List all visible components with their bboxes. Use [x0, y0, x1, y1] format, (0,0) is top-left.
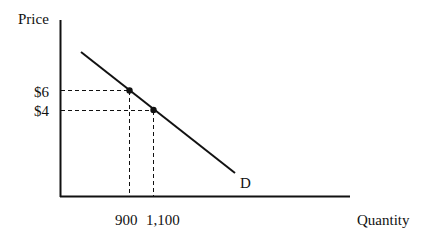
y-axis-label: Price — [18, 11, 49, 27]
reference-lines — [61, 91, 154, 197]
y-tick-6: $6 — [34, 84, 50, 100]
curve-label-d: D — [240, 175, 251, 191]
point-1100-4 — [150, 107, 156, 113]
point-900-6 — [126, 87, 132, 93]
x-axis-label: Quantity — [357, 212, 410, 228]
demand-chart: Price $6 $4 900 1,100 Quantity D — [0, 0, 428, 243]
x-tick-1100: 1,100 — [146, 212, 180, 228]
x-tick-900: 900 — [115, 212, 138, 228]
demand-curve — [81, 52, 235, 173]
y-tick-4: $4 — [34, 103, 50, 119]
